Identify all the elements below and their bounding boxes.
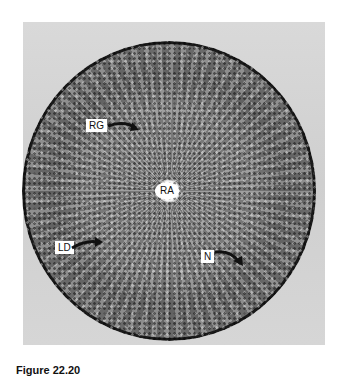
figure-caption: Figure 22.20	[16, 364, 80, 376]
arrow-n-icon	[213, 248, 247, 268]
label-ra: RA	[155, 182, 179, 200]
label-rg: RG	[86, 119, 107, 132]
arrow-ld-icon	[70, 236, 104, 252]
arrow-rg-icon	[106, 118, 140, 134]
